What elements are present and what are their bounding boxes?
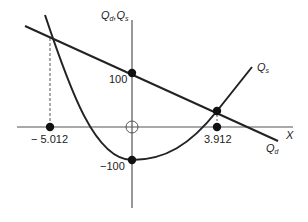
x-axis-label: X [285, 129, 294, 141]
qd-series-label: Qd [266, 142, 280, 155]
point-x-neg5012 [46, 123, 54, 131]
point-qs-min-neg100 [128, 156, 136, 164]
point-qd-intercept-100 [128, 69, 136, 77]
qs-series-label: Qs [257, 61, 270, 74]
point-x-3912 [213, 123, 221, 131]
y-axis-label: Qd,Qs [101, 9, 129, 22]
point-intersection-right [213, 107, 221, 115]
tick-label-neg5012: − 5.012 [31, 133, 68, 145]
tick-label-100: 100 [109, 73, 127, 85]
tick-label-neg100: −100 [100, 160, 125, 172]
chart-canvas: Qd,Qs 100 −100 − 5.012 3.912 X Qs Qd [0, 0, 308, 222]
tick-label-3912: 3.912 [204, 133, 232, 145]
